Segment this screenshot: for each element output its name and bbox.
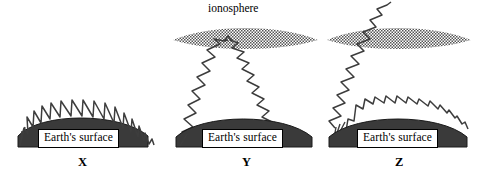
ionosphere-band-y xyxy=(160,18,330,58)
panel-letter-z: Z xyxy=(395,155,404,170)
sky-wave-penetrating-z xyxy=(329,2,391,128)
radio-wave-propagation-figure: Earth's surface X xyxy=(0,0,487,176)
ionosphere-label: ionosphere xyxy=(208,2,258,14)
panel-letter-y: Y xyxy=(242,155,251,170)
earth-surface-label-z: Earth's surface xyxy=(357,129,438,148)
panel-z: Earth's surface Z xyxy=(315,0,487,176)
earth-surface-label-x: Earth's surface xyxy=(38,129,119,148)
panel-y: ionosphere Earth's surface Y xyxy=(160,0,330,176)
panel-x-graphic xyxy=(0,0,170,176)
panel-y-graphic xyxy=(160,0,330,176)
earth-surface-label-y: Earth's surface xyxy=(202,129,283,148)
panel-x: Earth's surface X xyxy=(0,0,170,176)
panel-z-graphic xyxy=(315,0,487,176)
ionosphere-band-z xyxy=(315,18,487,58)
panel-letter-x: X xyxy=(78,155,87,170)
